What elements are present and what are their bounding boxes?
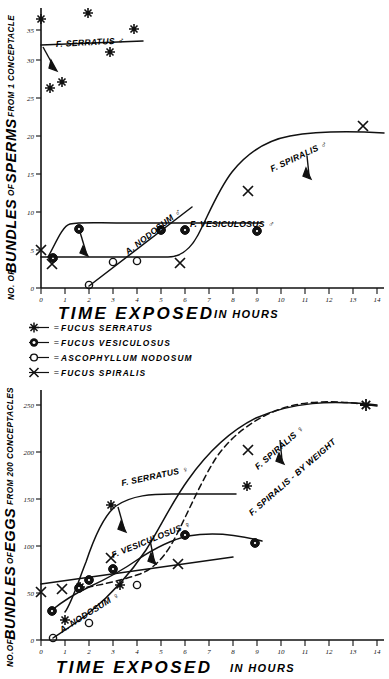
sperm-xtick-8: 8 [231, 296, 235, 304]
egg-ytick-0: 0 [31, 637, 35, 645]
egg-xtick-2: 2 [87, 648, 91, 656]
egg-xtick-13: 13 [350, 648, 358, 656]
egg-label-f-spiralis-by-weight: F. SPIRALIS - BY WEIGHT [247, 436, 338, 517]
asterisk-icon [26, 320, 52, 335]
sperm-x-axis-title: TIME EXPOSED [58, 304, 214, 320]
sperm-xtick-7: 7 [207, 296, 211, 304]
egg-ytick-100: 100 [24, 543, 35, 551]
sperm-ytick-0: 0 [31, 285, 35, 293]
egg-ytick-150: 150 [24, 496, 35, 504]
sperm-xtick-0: 0 [39, 296, 43, 304]
egg-points-f-serratus [60, 399, 372, 625]
legend-equals-0: = [52, 320, 61, 335]
egg-x-axis-subtitle: IN HOURS [230, 662, 295, 674]
legend-equals-2: = [52, 350, 61, 365]
egg-xtick-9: 9 [255, 648, 259, 656]
legend-label-1: FUCUS VESICULOSUS [61, 338, 171, 348]
sperm-ytick-10: 10 [27, 209, 35, 217]
sperm-points-f-serratus [36, 8, 139, 93]
egg-y-title-prefix: NO.OF [6, 638, 15, 667]
sperm-xtick-10: 10 [278, 296, 286, 304]
legend-equals-3: = [52, 365, 61, 380]
egg-chart-panel: NO.OF BUNDLES OF EGGS FROM 200 CONCEPTAC… [0, 382, 389, 679]
sperm-ytick-20: 20 [27, 133, 35, 141]
sperm-xtick-6: 6 [183, 296, 187, 304]
open-circle-icon [26, 350, 52, 365]
sperm-label-f-vesiculosus: F. VESICULOSUS ♂ [190, 219, 274, 229]
egg-y-ticks: 0 50 100 150 200 250 [24, 402, 42, 645]
egg-xtick-4: 4 [135, 648, 139, 656]
legend-label-2: ASCOPHYLLUM NODOSUM [61, 353, 193, 363]
sperm-y-title-main: BUNDLES [3, 199, 19, 273]
sperm-xtick-4: 4 [135, 296, 139, 304]
legend-item-ascophyllum-nodosum: = ASCOPHYLLUM NODOSUM [0, 350, 389, 365]
egg-ytick-200: 200 [24, 449, 35, 457]
egg-xtick-7: 7 [207, 648, 211, 656]
sperm-xtick-1: 1 [63, 296, 67, 304]
egg-xtick-14: 14 [374, 648, 382, 656]
sperm-ytick-30: 30 [26, 57, 35, 65]
egg-ytick-250: 250 [24, 402, 35, 410]
egg-ytick-50: 50 [27, 590, 35, 598]
egg-arrow-f-serratus [118, 507, 126, 532]
legend-panel: = FUCUS SERRATUS = FUCUS VESICULOSUS = A… [0, 320, 389, 382]
sperm-label-f-spiralis: F. SPIRALIS ♂ [269, 139, 329, 174]
sperm-arrow-f-spiralis [303, 156, 311, 179]
sperm-ytick-15: 15 [27, 171, 35, 179]
sperm-ytick-35: 35 [26, 27, 35, 35]
egg-chart-svg: NO.OF BUNDLES OF EGGS FROM 200 CONCEPTAC… [0, 382, 389, 679]
sperm-xtick-2: 2 [87, 296, 91, 304]
sperm-chart-svg: NO. OF BUNDLES OF SPERMS FROM 1 CONCEPTA… [0, 0, 389, 320]
sperm-xtick-5: 5 [159, 296, 163, 304]
egg-y-axis-title: NO.OF BUNDLES OF EGGS FROM 200 CONCEPTAC… [2, 387, 18, 667]
legend-label-0: FUCUS SERRATUS [61, 323, 153, 333]
legend-item-fucus-spiralis: = FUCUS SPIRALIS [0, 365, 389, 380]
egg-x-ticks: 0 1 2 3 4 5 6 7 8 9 10 11 12 13 14 [39, 640, 381, 656]
egg-xtick-5: 5 [159, 648, 163, 656]
sperm-xtick-11: 11 [302, 296, 308, 304]
sperm-curve-f-spiralis [41, 132, 384, 257]
sperm-label-a-nodosum: A. NODOSUM ♂ [122, 207, 183, 258]
egg-xtick-1: 1 [63, 648, 67, 656]
egg-label-a-nodosum: A. NODOSUM ♀ [57, 590, 121, 635]
sperm-x-axis-subtitle: IN HOURS [214, 308, 279, 320]
sperm-y-title-mid: OF [7, 183, 16, 196]
sperm-chart-panel: NO. OF BUNDLES OF SPERMS FROM 1 CONCEPTA… [0, 0, 389, 320]
egg-curve-f-vesiculosus [52, 534, 262, 610]
legend-item-fucus-serratus: = FUCUS SERRATUS [0, 320, 389, 335]
egg-curve-f-spiralis-by-weight [77, 402, 377, 589]
egg-y-title-em: EGGS [2, 508, 18, 552]
sperm-xtick-13: 13 [350, 296, 358, 304]
sperm-label-f-serratus: F. SERRATUS ♂ [56, 35, 125, 49]
egg-xtick-11: 11 [302, 648, 308, 656]
sperm-y-axis-title: NO. OF BUNDLES OF SPERMS FROM 1 CONCEPTA… [3, 15, 19, 300]
circled-dot-icon [26, 335, 52, 350]
egg-xtick-3: 3 [110, 648, 115, 656]
egg-curve-f-spiralis [41, 557, 233, 584]
egg-xtick-6: 6 [183, 648, 187, 656]
sperm-xtick-3: 3 [110, 296, 115, 304]
sperm-ytick-5: 5 [31, 247, 35, 255]
egg-xtick-0: 0 [39, 648, 43, 656]
egg-x-axis-title: TIME EXPOSED [56, 658, 212, 677]
sperm-xtick-9: 9 [255, 296, 259, 304]
sperm-arrow-f-serratus [43, 47, 57, 71]
legend-equals-1: = [52, 335, 61, 350]
egg-label-f-spiralis: F. SPIRALIS ♀ [253, 424, 306, 472]
sperm-xtick-12: 12 [326, 296, 334, 304]
egg-xtick-10: 10 [278, 648, 286, 656]
sperm-y-title-suffix: FROM 1 CONCEPTACLE [7, 15, 16, 117]
egg-xtick-12: 12 [326, 648, 334, 656]
egg-y-title-main: BUNDLES [2, 566, 18, 640]
sperm-arrow-f-vesiculosus [80, 232, 88, 256]
egg-label-f-serratus: F. SERRATUS ♀ [120, 464, 189, 488]
sperm-x-ticks: 0 1 2 3 4 5 6 7 8 9 10 11 12 13 14 [39, 288, 381, 304]
egg-xtick-8: 8 [231, 648, 235, 656]
cross-x-icon [26, 365, 52, 380]
sperm-y-title-em: SPERMS [3, 118, 19, 183]
legend-label-3: FUCUS SPIRALIS [61, 368, 146, 378]
egg-y-title-mid: OF [6, 551, 15, 564]
sperm-xtick-14: 14 [374, 296, 382, 304]
egg-points-f-spiralis [36, 445, 253, 597]
sperm-ytick-25: 25 [27, 95, 35, 103]
